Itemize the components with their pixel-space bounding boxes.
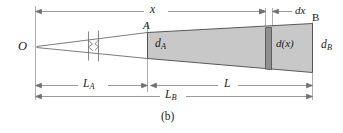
- dimension-dx-arrow-inner: [260, 9, 266, 14]
- break-symbol: [89, 31, 99, 62]
- label-diameter-x: d(x): [276, 38, 294, 49]
- figure-caption: (b): [161, 110, 174, 122]
- taper-line-lower: [37, 48, 148, 59]
- label-element-dx: dx: [295, 5, 305, 16]
- break-zigzag-left: [89, 41, 93, 51]
- label-section-a: A: [143, 20, 150, 31]
- differential-slice: [266, 27, 272, 69]
- dimension-lb-arrow-left: [36, 94, 42, 99]
- label-length-la: LA: [83, 78, 95, 92]
- label-diameter-b: dB: [321, 39, 332, 53]
- label-diameter-a-base: d: [155, 37, 161, 49]
- label-length-lb-sub: B: [172, 93, 177, 102]
- label-diameter-b-base: d: [321, 38, 327, 50]
- dimension-la-arrow-left: [36, 83, 42, 88]
- label-length-la-sub: A: [90, 82, 95, 91]
- dimension-lb-arrow-right: [307, 94, 313, 99]
- label-length-lb-base: L: [165, 88, 171, 100]
- taper-guide-lines: [37, 33, 148, 59]
- label-section-b: B: [312, 12, 319, 23]
- dimension-l-arrow-left: [151, 83, 157, 88]
- label-diameter-a: dA: [155, 38, 166, 52]
- dimension-dx: [260, 9, 293, 14]
- dimension-x-arrow-left: [36, 9, 42, 14]
- label-diameter-a-sub: A: [161, 42, 166, 51]
- label-distance-x: x: [150, 4, 155, 16]
- label-length-l: L: [224, 78, 230, 90]
- label-length-lb: LB: [165, 89, 177, 103]
- label-length-la-base: L: [83, 77, 89, 89]
- dimension-l: [151, 83, 313, 88]
- break-zigzag-right: [95, 40, 99, 50]
- dimension-dx-arrow-left: [273, 9, 279, 14]
- dimension-la-arrow-right: [142, 83, 148, 88]
- label-origin: O: [18, 40, 27, 53]
- tapered-bar-figure: O A B dA d(x) dB x dx LA L LB (b): [0, 0, 343, 133]
- dimension-l-arrow-right: [307, 83, 313, 88]
- label-diameter-b-sub: B: [327, 43, 332, 52]
